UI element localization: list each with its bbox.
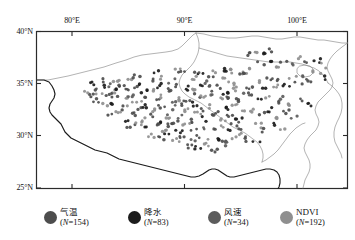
scatter-point: [219, 96, 222, 99]
scatter-point: [140, 124, 143, 127]
scatter-point: [162, 138, 166, 142]
scatter-point: [212, 127, 215, 130]
scatter-point: [170, 122, 173, 125]
scatter-point: [190, 129, 193, 132]
scatter-point: [112, 80, 116, 84]
scatter-point: [110, 113, 113, 116]
scatter-point: [143, 116, 146, 119]
scatter-point: [256, 60, 259, 63]
scatter-point: [174, 85, 177, 88]
scatter-point: [204, 120, 207, 123]
scatter-point: [307, 102, 310, 105]
scatter-point: [261, 86, 264, 89]
scatter-point: [155, 98, 158, 101]
scatter-point: [248, 67, 251, 70]
scatter-point: [192, 104, 195, 107]
scatter-point: [270, 106, 273, 109]
scatter-point: [244, 135, 247, 138]
scatter-point: [86, 91, 89, 94]
legend-item-ndvi[interactable]: NDVI (N=192): [280, 200, 325, 234]
scatter-point: [240, 116, 243, 119]
scatter-point: [163, 106, 166, 109]
scatter-point: [124, 120, 127, 123]
scatter-point: [324, 78, 327, 81]
scatter-point: [208, 103, 211, 106]
scatter-point: [305, 78, 308, 81]
scatter-point: [305, 61, 308, 64]
scatter-point: [133, 73, 136, 76]
scatter-point: [259, 140, 262, 143]
scatter-point: [223, 77, 226, 80]
scatter-point: [312, 71, 315, 74]
scatter-point: [167, 117, 170, 120]
scatter-point: [110, 95, 113, 98]
legend-count-value-ndvi: =192: [305, 217, 323, 227]
scatter-point: [288, 85, 291, 88]
scatter-point: [153, 72, 156, 75]
scatter-point: [201, 115, 204, 118]
scatter-point: [110, 92, 113, 95]
scatter-point: [163, 132, 166, 135]
scatter-point: [126, 78, 129, 81]
scatter-point: [211, 69, 214, 72]
scatter-point: [260, 122, 263, 125]
scatter-point: [174, 67, 177, 70]
scatter-point: [116, 80, 119, 83]
scatter-point: [264, 96, 267, 99]
scatter-point: [229, 68, 233, 72]
scatter-point: [181, 129, 184, 132]
scatter-point: [262, 63, 266, 67]
scatter-point: [193, 147, 196, 150]
scatter-point: [159, 93, 162, 96]
scatter-point: [254, 122, 257, 125]
scatter-point: [166, 125, 170, 129]
scatter-point: [227, 96, 230, 99]
scatter-point: [177, 96, 180, 99]
scatter-point: [123, 84, 126, 87]
scatter-point: [159, 78, 162, 81]
scatter-point: [131, 76, 134, 79]
y-tick-label-3: 25°N: [0, 184, 33, 192]
scatter-point: [193, 139, 196, 142]
legend-item-jiangshui[interactable]: 降水 (N=83): [128, 200, 169, 234]
scatter-point: [284, 112, 288, 116]
scatter-point: [217, 138, 220, 141]
legend-label-qiwen: 气温: [60, 208, 89, 217]
legend-item-fengsu[interactable]: 风速 (N=34): [208, 200, 249, 234]
scatter-point: [234, 104, 237, 107]
scatter-point: [103, 86, 106, 89]
scatter-point: [215, 84, 218, 87]
scatter-point: [183, 108, 186, 111]
scatter-point: [190, 138, 193, 141]
scatter-point: [227, 115, 230, 118]
scatter-point: [268, 47, 271, 50]
scatter-point: [160, 75, 163, 78]
scatter-point: [183, 123, 186, 126]
scatter-point: [151, 79, 154, 82]
scatter-point: [283, 83, 286, 86]
scatter-point: [231, 137, 234, 140]
legend-swatch-qiwen: [44, 211, 57, 224]
scatter-point: [299, 97, 302, 100]
scatter-point: [152, 136, 155, 139]
scatter-point: [301, 75, 304, 78]
x-tick-label-1: 90°E: [177, 17, 193, 25]
scatter-point: [255, 51, 258, 54]
legend-item-qiwen[interactable]: 气温 (N=154): [44, 200, 89, 234]
scatter-point: [232, 82, 235, 85]
scatter-point: [240, 128, 243, 131]
scatter-point: [106, 104, 109, 107]
scatter-point: [208, 84, 211, 87]
scatter-point: [195, 75, 198, 78]
scatter-point: [212, 75, 215, 78]
scatter-point: [193, 88, 196, 91]
scatter-point: [195, 128, 198, 131]
scatter-point: [199, 113, 202, 116]
scatter-point: [92, 100, 95, 103]
scatter-point: [264, 86, 267, 89]
scatter-point: [171, 108, 175, 112]
scatter-point: [300, 82, 303, 85]
scatter-point: [117, 111, 120, 114]
scatter-point: [157, 69, 160, 72]
scatter-point: [109, 82, 112, 85]
